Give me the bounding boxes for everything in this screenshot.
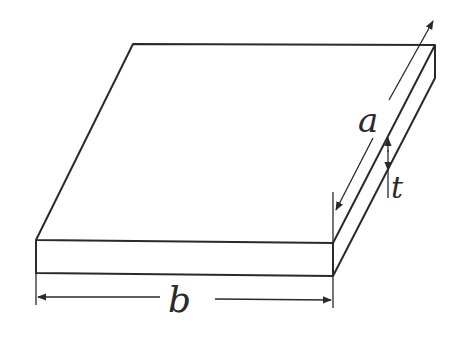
label-a: a <box>358 100 378 140</box>
label-b: b <box>168 279 191 320</box>
dimension-a: a <box>333 21 433 243</box>
dimension-b: b <box>36 273 333 320</box>
plate-diagram: b a t <box>0 0 474 339</box>
label-t: t <box>391 170 404 205</box>
plate-side-face <box>333 45 435 276</box>
dimension-t: t <box>388 138 404 205</box>
plate-top-face <box>36 44 435 243</box>
dimension-arrow-right <box>215 299 331 300</box>
plate-front-face <box>36 240 333 276</box>
